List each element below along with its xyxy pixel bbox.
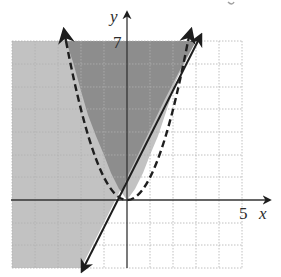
inequality-graph: y 7 5 x [0, 0, 281, 277]
x-tick-label-5: 5 [239, 204, 248, 223]
x-axis-label: x [258, 204, 267, 223]
parabola-left-arrow [64, 30, 66, 41]
y-tick-label-7: 7 [113, 33, 122, 52]
y-axis-label: y [108, 7, 118, 26]
parabola-right-arrow [188, 30, 191, 41]
cropped-text-remnant [228, 2, 234, 4]
